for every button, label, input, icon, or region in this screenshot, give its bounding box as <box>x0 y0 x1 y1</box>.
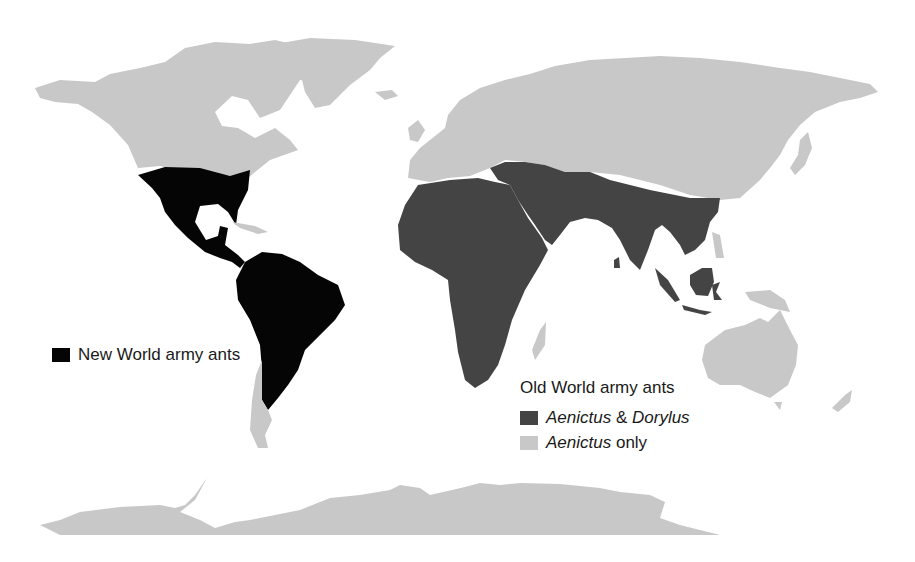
new-world-range-north <box>138 167 250 268</box>
japan <box>790 132 812 175</box>
sulawesi <box>712 282 722 300</box>
south-america <box>236 252 345 410</box>
borneo <box>690 268 714 296</box>
antarctica <box>40 478 720 535</box>
australia <box>702 310 798 398</box>
joiner: & <box>611 408 632 427</box>
sumatra <box>655 268 680 302</box>
new-world-label: New World army ants <box>78 345 240 365</box>
british-isles <box>408 120 425 142</box>
sri-lanka <box>614 257 620 268</box>
iceland <box>375 90 398 100</box>
new-world-swatch <box>52 348 70 362</box>
map-figure: New World army ants Old World army ants … <box>0 0 915 562</box>
aenictus-only-label: Aenictus only <box>546 433 647 453</box>
aenictus-dorylus-label: Aenictus & Dorylus <box>546 408 690 428</box>
aenictus-only-swatch <box>520 436 538 450</box>
new-guinea <box>745 290 790 312</box>
aenictus-dorylus-swatch <box>520 411 538 425</box>
madagascar <box>532 322 546 360</box>
new-zealand <box>832 390 852 412</box>
genus-dorylus: Dorylus <box>632 408 690 427</box>
java <box>682 305 712 315</box>
genus-aenictus: Aenictus <box>546 433 611 452</box>
suffix: only <box>611 433 647 452</box>
philippines <box>712 232 724 258</box>
caribbean-islands <box>232 222 268 234</box>
world-map <box>0 0 915 562</box>
tasmania <box>774 402 782 410</box>
old-world-title: Old World army ants <box>520 378 675 398</box>
genus-aenictus: Aenictus <box>546 408 611 427</box>
